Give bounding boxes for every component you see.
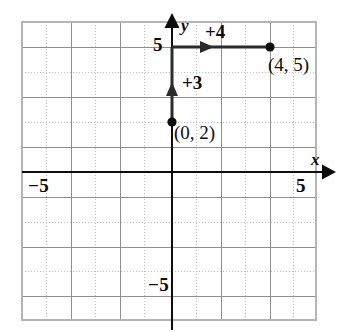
y-axis-arrowhead: [165, 13, 180, 28]
horizontal-move-label: +4: [205, 22, 225, 41]
y-axis-name-label: y: [181, 17, 189, 34]
y-axis-positive-tick-label: 5: [153, 35, 163, 54]
x-axis-name-label: x: [311, 151, 320, 168]
coordinate-plane-figure: 5 5 −5 −5 x y +4 +3 (0, 2) (4, 5): [0, 0, 338, 332]
x-axis-arrowhead: [322, 165, 336, 180]
vertical-move-label: +3: [182, 73, 202, 92]
point-marker-end: [265, 42, 274, 51]
end-point-label: (4, 5): [268, 55, 309, 74]
start-point-label: (0, 2): [174, 123, 215, 142]
y-axis-negative-tick-label: −5: [148, 275, 169, 294]
x-axis-positive-tick-label: 5: [296, 176, 306, 195]
x-axis-negative-tick-label: −5: [28, 176, 49, 195]
